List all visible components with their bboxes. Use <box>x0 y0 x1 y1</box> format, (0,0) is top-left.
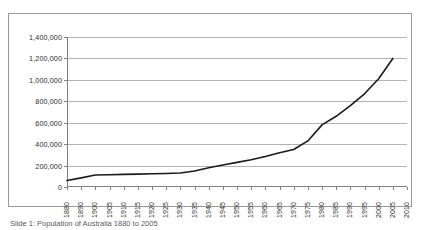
x-axis-tick-label: 1985 <box>332 202 339 218</box>
x-axis-tick-mark <box>407 187 408 190</box>
x-axis-tick-label: 1890 <box>77 202 84 218</box>
x-axis-tick-label: 1945 <box>219 202 226 218</box>
x-axis-tick-labels: 1880189019001905191019151920192519301935… <box>67 190 407 220</box>
x-axis-tick-label: 1925 <box>162 202 169 218</box>
x-axis-tick-label: 1995 <box>361 202 368 218</box>
x-axis-tick-label: 1965 <box>276 202 283 218</box>
y-axis-tick-label: 1,000,000 <box>29 75 62 84</box>
x-axis-tick-label: 2005 <box>389 202 396 218</box>
y-axis-tick-label: 800,000 <box>35 97 62 106</box>
x-axis-tick-label: 1960 <box>261 202 268 218</box>
plot-area <box>67 37 407 187</box>
x-axis-tick-label: 1915 <box>134 202 141 218</box>
x-axis-tick-label: 1935 <box>191 202 198 218</box>
x-axis-tick-label: 1950 <box>233 202 240 218</box>
series-line-population <box>67 37 407 187</box>
y-axis-tick-label: 1,200,000 <box>29 54 62 63</box>
x-axis-tick-label: 1920 <box>148 202 155 218</box>
y-axis-tick-label: 600,000 <box>35 118 62 127</box>
x-axis-tick-label: 1940 <box>205 202 212 218</box>
y-axis-tick-label: 0 <box>58 183 62 192</box>
x-axis-tick-label: 1970 <box>290 202 297 218</box>
x-axis-tick-label: 1930 <box>176 202 183 218</box>
figure-container: 1,400,0001,200,0001,000,000800,000600,00… <box>0 0 426 230</box>
x-axis-tick-label: 2010 <box>403 202 410 218</box>
x-axis-tick-label: 1900 <box>91 202 98 218</box>
y-axis-tick-labels: 1,400,0001,200,0001,000,000800,000600,00… <box>9 37 62 187</box>
chart-frame: 1,400,0001,200,0001,000,000800,000600,00… <box>8 13 412 207</box>
x-axis-tick-label: 1880 <box>63 202 70 218</box>
x-axis-tick-label: 1975 <box>304 202 311 218</box>
y-axis-tick-label: 200,000 <box>35 161 62 170</box>
x-axis-tick-label: 1990 <box>346 202 353 218</box>
x-axis-tick-label: 1980 <box>318 202 325 218</box>
y-axis-tick-label: 400,000 <box>35 140 62 149</box>
figure-caption: Slide 1: Population of Australia 1880 to… <box>10 219 420 229</box>
x-axis-tick-label: 1910 <box>120 202 127 218</box>
y-axis-tick-label: 1,400,000 <box>29 33 62 42</box>
x-axis-tick-label: 1905 <box>106 202 113 218</box>
x-axis-tick-label: 2000 <box>375 202 382 218</box>
x-axis-tick-label: 1955 <box>247 202 254 218</box>
